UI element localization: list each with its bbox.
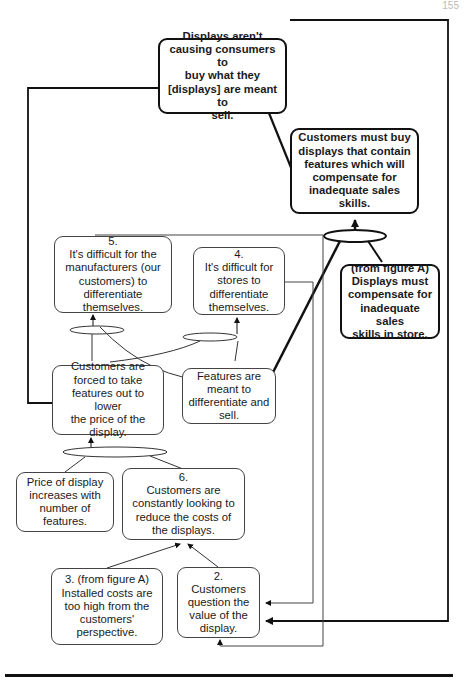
and-connector-n4	[183, 333, 237, 341]
node-3: 3. (from figure A) Installed costs are t…	[51, 568, 163, 645]
node-5-text: 5. It's difficult for the manufacturers …	[65, 235, 160, 314]
node-features-text: Features are meant to differentiate and …	[189, 370, 270, 423]
node-price-text: Price of display increases with number o…	[27, 476, 104, 529]
node-top: Displays aren't causing consumers to buy…	[158, 38, 287, 114]
node-6-text: 6. Customers are constantly looking to r…	[132, 471, 234, 537]
node-fig-a-displays: (from figure A) Displays must compensate…	[340, 264, 440, 339]
and-connector-forced	[63, 447, 167, 457]
node-features: Features are meant to differentiate and …	[182, 368, 276, 424]
and-connector-mustbuy	[324, 230, 386, 242]
node-must-buy: Customers must buy displays that contain…	[290, 128, 419, 214]
node-4: 4. It's difficult for stores to differen…	[193, 247, 285, 315]
node-3-text: 3. (from figure A) Installed costs are t…	[61, 573, 152, 639]
node-top-text: Displays aren't causing consumers to buy…	[164, 30, 281, 122]
page-rule	[5, 674, 453, 677]
node-forced-text: Customers are forced to take features ou…	[57, 360, 159, 439]
and-connector-n5	[70, 326, 124, 334]
link-n4-to-n2	[266, 282, 313, 603]
node-price: Price of display increases with number o…	[16, 472, 114, 532]
node-must-buy-text: Customers must buy displays that contain…	[298, 131, 410, 210]
arrow-n2-to-n6	[188, 544, 218, 567]
node-forced: Customers are forced to take features ou…	[52, 365, 164, 435]
node-4-text: 4. It's difficult for stores to differen…	[205, 248, 274, 314]
node-2: 2. Customers question the value of the d…	[177, 567, 260, 638]
node-6: 6. Customers are constantly looking to r…	[122, 468, 245, 540]
node-fig-a-displays-text: (from figure A) Displays must compensate…	[346, 262, 434, 341]
link-figA-to-and	[368, 241, 382, 262]
arrow-n3-to-n6	[107, 544, 180, 568]
node-5: 5. It's difficult for the manufacturers …	[54, 236, 172, 313]
node-2-text: 2. Customers question the value of the d…	[188, 570, 250, 636]
